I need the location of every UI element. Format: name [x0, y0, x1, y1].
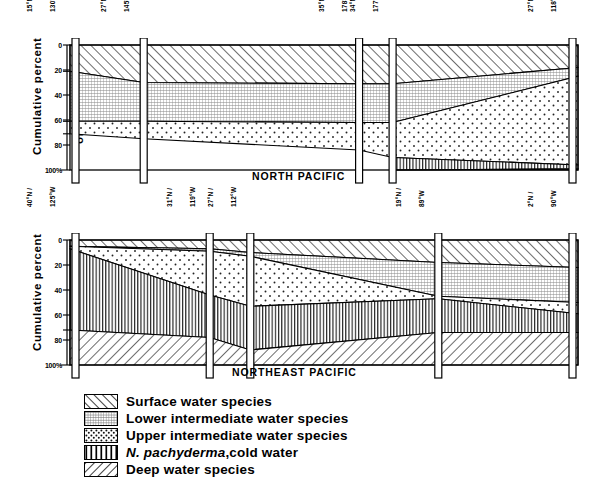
station-label-upper-0: 15°N / 130°E — [11, 0, 71, 12]
plot-area-northeast-pacific — [56, 233, 592, 381]
y-axis-ticks-lower — [60, 240, 70, 365]
station-riser-lower-0 — [72, 233, 79, 378]
station-label-upper-3: 34°N / 177°W — [334, 0, 394, 12]
legend-item-upper-intermediate: Upper intermediate water species — [84, 427, 349, 444]
legend-swatch-coarse-dots-icon — [84, 428, 118, 443]
legend-item-surface: Surface water species — [84, 393, 349, 410]
station-riser-upper-4 — [569, 38, 576, 183]
y-axis-title-lower-line1: Cumulative percent — [30, 212, 44, 372]
legend-label-n-pachyderma-suffix: ,cold water — [225, 445, 298, 460]
y-axis-title-upper: Cumulative percent of depth ranked assem… — [2, 16, 36, 176]
station-label-lower-4: 2°N / 90°W — [512, 175, 572, 207]
legend: Surface water species Lower intermediate… — [84, 393, 349, 478]
panel-caption-north-pacific: NORTH PACIFIC — [252, 170, 345, 182]
legend-swatch-fine-stipple-icon — [84, 411, 118, 426]
legend-label-lower-intermediate: Lower intermediate water species — [126, 411, 349, 426]
station-label-lower-3: 19°N / 89°W — [380, 175, 440, 207]
legend-swatch-back-hatch-icon — [84, 462, 118, 477]
station-riser-lower-4 — [569, 233, 576, 378]
legend-item-n-pachyderma: N. pachyderma,cold water — [84, 444, 349, 461]
legend-item-lower-intermediate: Lower intermediate water species — [84, 410, 349, 427]
legend-label-n-pachyderma: N. pachyderma,cold water — [126, 445, 298, 460]
station-riser-upper-2 — [356, 38, 363, 183]
y-axis-title-line1: Cumulative percent — [30, 16, 44, 176]
station-label-lower-0: 40°N / 125°W — [11, 175, 71, 207]
legend-label-deep: Deep water species — [126, 462, 255, 477]
legend-label-n-pachyderma-species: N. pachyderma — [126, 445, 225, 460]
plot-area-north-pacific — [56, 38, 592, 186]
station-label-lower-2: 27°N / 112°W — [192, 175, 252, 207]
legend-label-upper-intermediate: Upper intermediate water species — [126, 428, 348, 443]
station-label-upper-1: 27°N / 145°E — [85, 0, 145, 12]
legend-item-deep: Deep water species — [84, 461, 349, 478]
figure-root: Cumulative percent of depth ranked assem… — [0, 0, 599, 480]
legend-label-surface: Surface water species — [126, 394, 272, 409]
station-riser-upper-1 — [140, 38, 147, 183]
station-riser-upper-0 — [72, 38, 79, 183]
station-riser-upper-3 — [389, 38, 396, 183]
station-riser-lower-1 — [206, 233, 213, 378]
panel-caption-northeast-pacific: NORTHEAST PACIFIC — [232, 366, 357, 378]
station-label-upper-4: 27°N / 118°W — [512, 0, 572, 12]
legend-swatch-vertical-lines-icon — [84, 445, 118, 460]
y-axis-title-lower: Cumulative percent of depth ranked assem… — [2, 212, 36, 372]
station-riser-lower-2 — [247, 233, 254, 378]
legend-swatch-forward-hatch-icon — [84, 394, 118, 409]
y-axis-ticks-upper — [60, 45, 70, 170]
station-riser-lower-3 — [435, 233, 442, 378]
